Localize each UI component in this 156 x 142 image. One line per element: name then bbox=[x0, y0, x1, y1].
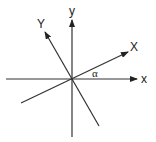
angle-alpha-label: α bbox=[92, 67, 98, 79]
rotated-Y-axis-label: Y bbox=[37, 17, 45, 31]
y-axis-label: y bbox=[69, 4, 75, 18]
rotated-X-axis-label: X bbox=[130, 40, 138, 54]
rotated-X-axis-line bbox=[21, 52, 128, 103]
coordinate-diagram: x y X Y α bbox=[0, 0, 156, 142]
x-axis-label: x bbox=[141, 72, 147, 86]
